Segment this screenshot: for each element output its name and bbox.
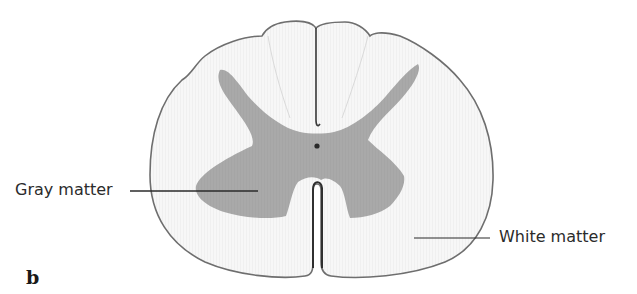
white-matter-label: White matter: [499, 229, 605, 245]
panel-letter: b: [26, 268, 39, 287]
gray-matter-label: Gray matter: [15, 182, 113, 198]
spinal-cord-figure: Gray matter White matter b: [0, 0, 637, 294]
spinal-cord-cross-section: [0, 0, 637, 294]
central-canal: [314, 143, 319, 148]
